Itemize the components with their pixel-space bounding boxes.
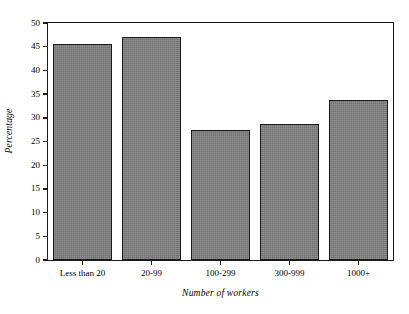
bar-slot [117, 23, 186, 260]
bar-slot [186, 23, 255, 260]
y-tick-label: 15 [31, 182, 40, 195]
y-tick-label: 30 [31, 111, 40, 124]
bar [260, 124, 319, 260]
x-tick-mark [220, 260, 221, 265]
bar [53, 44, 112, 260]
bar-slot [324, 23, 393, 260]
x-tick-label: 300-999 [275, 268, 305, 278]
bar-slot [48, 23, 117, 260]
x-axis-title: Number of workers [47, 288, 394, 298]
x-tick-label: Less than 20 [60, 268, 106, 278]
x-tick-label: 100-299 [206, 268, 236, 278]
bar-slot [255, 23, 324, 260]
y-tick-label: 10 [31, 206, 40, 219]
x-tick-mark [151, 260, 152, 265]
y-tick-label: 45 [31, 40, 40, 53]
y-tick-label: 0 [36, 254, 41, 267]
bar [122, 37, 181, 260]
x-tick-mark [82, 260, 83, 265]
bar [329, 100, 388, 260]
y-tick-label: 40 [31, 64, 40, 77]
x-tick-mark [289, 260, 290, 265]
y-tick-label: 35 [31, 88, 40, 101]
y-tick-label: 25 [31, 135, 40, 148]
y-tick-label: 5 [36, 230, 41, 243]
x-tick-mark [358, 260, 359, 265]
y-tick-label: 20 [31, 159, 40, 172]
bar [191, 130, 250, 260]
bar-series [48, 23, 393, 260]
y-axis-title-text: Percentage [4, 109, 14, 154]
bar-chart-figure: Percentage 05101520253035404550 Less tha… [0, 0, 409, 314]
y-axis-title: Percentage [0, 0, 18, 262]
plot-area: 05101520253035404550 Less than 2020-9910… [47, 22, 394, 261]
x-tick-label: 1000+ [347, 268, 370, 278]
y-tick-label: 50 [31, 17, 40, 30]
x-tick-label: 20-99 [141, 268, 162, 278]
